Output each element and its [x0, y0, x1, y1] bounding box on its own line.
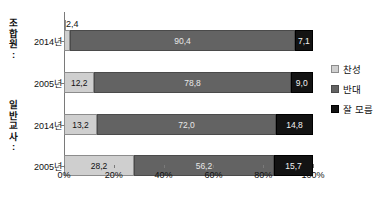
- bar-segment-value: 12,2: [71, 78, 88, 88]
- bar-segment-value: 78,8: [184, 78, 201, 88]
- bar-segment-value: 15,7: [285, 161, 302, 171]
- bar-segment-value: 13,2: [72, 120, 89, 130]
- bar-segment-oppose: 78,8: [94, 72, 290, 93]
- x-axis-label-2: 40%: [144, 170, 184, 180]
- chart-legend: 찬성반대잘 모름: [331, 63, 389, 123]
- legend-label: 찬성: [343, 62, 361, 76]
- category-label-1: 2005년: [24, 77, 62, 90]
- bar-segment-value: 9,0: [296, 78, 308, 88]
- x-axis-tick: [164, 165, 165, 168]
- bar-row: 2,490,47,1: [64, 30, 313, 51]
- y-axis-tick: [60, 41, 64, 42]
- bar-row: 13,272,014,8: [64, 114, 313, 135]
- bar-segment-unknown: 9,0: [291, 72, 313, 93]
- legend-item-unknown[interactable]: 잘 모름: [331, 103, 389, 114]
- group-label-teacher: 일반교사:: [7, 100, 20, 153]
- bar-segment-agree: 12,2: [64, 72, 94, 93]
- legend-label: 잘 모름: [343, 102, 373, 116]
- stacked-bar-chart: 조합원: 일반교사: 2014년2005년2014년2005년 2,490,47…: [0, 0, 389, 199]
- group-label-char: :: [7, 50, 20, 61]
- bar-segment-value: 7,1: [298, 36, 310, 46]
- y-axis-tick: [60, 125, 64, 126]
- group-label-char: 일: [7, 100, 20, 111]
- bar-segment-value: 90,4: [174, 36, 191, 46]
- legend-item-oppose[interactable]: 반대: [331, 83, 389, 94]
- bar-segment-value: 2,4: [66, 19, 79, 29]
- group-label-union: 조합원:: [7, 18, 20, 60]
- x-axis-label-5: 100%: [293, 170, 333, 180]
- group-label-char: 원: [7, 39, 20, 50]
- group-label-char: :: [7, 142, 20, 153]
- category-label-0: 2014년: [24, 35, 62, 48]
- group-label-char: 조: [7, 18, 20, 29]
- bar-segment-value: 72,0: [178, 120, 195, 130]
- legend-swatch: [331, 85, 339, 93]
- legend-swatch: [331, 105, 339, 113]
- x-axis-label-3: 60%: [193, 170, 233, 180]
- bar-segment-oppose: 72,0: [97, 114, 276, 135]
- category-labels: 2014년2005년2014년2005년: [22, 0, 62, 176]
- legend-swatch: [331, 65, 339, 73]
- y-axis-tick: [60, 83, 64, 84]
- legend-item-agree[interactable]: 찬성: [331, 63, 389, 74]
- category-label-2: 2014년: [24, 119, 62, 132]
- x-axis-label-1: 20%: [94, 170, 134, 180]
- x-axis-label-0: 0%: [44, 170, 84, 180]
- x-axis-tick: [263, 165, 264, 168]
- x-axis-tick: [114, 165, 115, 168]
- bar-segment-agree: 13,2: [64, 114, 97, 135]
- x-axis-label-4: 80%: [243, 170, 283, 180]
- x-axis-tick: [313, 165, 314, 168]
- bar-segment-value: 14,8: [286, 120, 303, 130]
- bar-segment-oppose: 90,4: [70, 30, 295, 51]
- legend-label: 반대: [343, 82, 361, 96]
- bar-segment-unknown: 14,8: [276, 114, 313, 135]
- bar-segment-value: 28,2: [91, 161, 108, 171]
- x-axis-tick: [64, 165, 65, 168]
- plot-area: 2,490,47,112,278,89,013,272,014,828,256,…: [64, 12, 313, 164]
- bar-segment-unknown: 7,1: [295, 30, 313, 51]
- group-label-char: 교: [7, 121, 20, 132]
- bar-row: 12,278,89,0: [64, 72, 313, 93]
- x-axis-tick: [213, 165, 214, 168]
- bar-segment-value: 56,2: [196, 161, 213, 171]
